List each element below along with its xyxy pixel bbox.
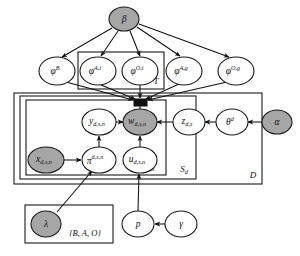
node-p-label: p [135, 219, 141, 229]
node-phi-Ot[interactable]: φO,t [122, 57, 158, 85]
node-phi-Og[interactable]: φO,g [218, 57, 254, 85]
node-beta-label: β [121, 14, 127, 24]
svg-text:γ: γ [179, 219, 183, 229]
node-lambda[interactable]: λ [31, 211, 61, 237]
node-y[interactable]: yd,s,n [82, 109, 116, 135]
node-gamma-label: γ [179, 219, 183, 229]
node-x-sub: d,s,n [40, 158, 52, 165]
node-phi-Ag-sup: A,g [178, 64, 187, 71]
node-beta[interactable]: β [109, 7, 139, 31]
plate-diagram-canvas: T D Sd Nd,s [0, 0, 300, 256]
w-gate-node [134, 99, 147, 106]
edge-beta-phiB [62, 28, 112, 57]
node-p[interactable]: p [122, 211, 154, 237]
node-phi-At-sup: A,t [93, 64, 101, 71]
node-pi-sup: d,s,n [92, 154, 104, 161]
node-phi-Og-shape[interactable] [218, 57, 254, 85]
node-phi-B-sup: B [56, 64, 60, 71]
node-theta-shape[interactable] [216, 109, 248, 135]
node-phi-At-shape[interactable] [80, 57, 116, 85]
plate-Sd-label: Sd [180, 164, 189, 175]
node-alpha[interactable]: α [262, 110, 292, 134]
edge-p-u [138, 174, 139, 211]
plate-Sd-label-sub: d [185, 168, 189, 175]
node-phi-At[interactable]: φA,t [80, 57, 116, 85]
node-x[interactable]: xd,s,n [28, 147, 64, 173]
node-phi-Ot-shape[interactable] [122, 57, 158, 85]
plate-diagram-svg: T D Sd Nd,s [0, 0, 300, 256]
svg-text:β: β [121, 14, 127, 24]
node-y-sub: d,s,n [93, 120, 105, 127]
node-phi-B[interactable]: φB [39, 57, 75, 85]
node-w[interactable]: wd,s,n [123, 109, 157, 135]
node-pi[interactable]: πd,s,n [82, 147, 116, 173]
node-theta[interactable]: θd [216, 109, 248, 135]
node-phi-Ot-sup: O,t [136, 64, 144, 71]
node-u-sub: d,s,n [134, 158, 146, 165]
node-w-sub: d,s,n [134, 120, 146, 127]
node-phi-B-shape[interactable] [39, 57, 75, 85]
node-z[interactable]: zd,s [173, 109, 205, 135]
svg-text:λ: λ [43, 219, 48, 229]
node-phi-Ag-shape[interactable] [166, 57, 202, 85]
edge-lambda-pi [57, 171, 92, 212]
plate-D-label: D [249, 170, 257, 180]
edge-phiAt-gate [101, 85, 135, 99]
node-u[interactable]: ud,s,n [123, 147, 157, 173]
node-gamma[interactable]: γ [165, 211, 197, 237]
svg-text:p: p [135, 219, 141, 229]
node-lambda-label: λ [43, 219, 48, 229]
node-phi-Ag[interactable]: φA,g [166, 57, 202, 85]
node-phi-Og-sup: O,g [231, 64, 240, 71]
lambda-set-label: {B, A, O} [69, 228, 101, 238]
node-z-sub: d,s [185, 120, 193, 127]
